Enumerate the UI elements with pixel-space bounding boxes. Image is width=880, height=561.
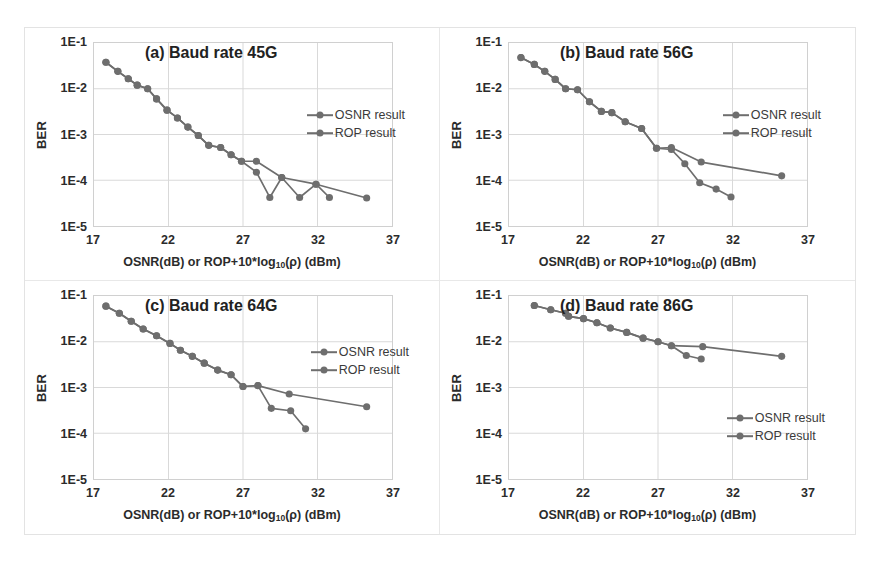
data-point	[125, 75, 132, 82]
data-point	[312, 181, 319, 188]
y-tick-a-3: 1E-4	[61, 174, 87, 188]
data-point	[668, 342, 675, 349]
data-point	[278, 174, 285, 181]
legend-label-osnr: OSNR result	[335, 108, 405, 122]
panel-a: BER 1E-11E-21E-31E-41E-5 (a) Baud rate 4…	[25, 28, 440, 281]
legend-label-rop: ROP result	[751, 126, 812, 140]
panel-title-c: (c) Baud rate 64G	[145, 297, 277, 315]
data-point	[253, 158, 260, 165]
data-point	[128, 318, 135, 325]
data-point	[239, 383, 246, 390]
y-tick-d-3: 1E-4	[476, 427, 502, 441]
legend-marker-icon	[307, 109, 333, 121]
data-point	[699, 343, 706, 350]
panel-title-b: (b) Baud rate 56G	[560, 44, 693, 62]
x-tick-d-0: 17	[501, 486, 515, 500]
data-point	[238, 158, 245, 165]
data-point	[552, 76, 559, 83]
data-point	[623, 329, 630, 336]
legend-label-osnr: OSNR result	[751, 108, 821, 122]
panel-title-d: (d) Baud rate 86G	[560, 297, 693, 315]
y-tick-d-2: 1E-3	[476, 381, 502, 395]
data-point	[302, 425, 309, 432]
data-point	[681, 160, 688, 167]
data-point	[195, 132, 202, 139]
legend-marker-icon	[727, 412, 753, 424]
x-tick-a-4: 37	[386, 233, 400, 247]
panel-grid: BER 1E-11E-21E-31E-41E-5 (a) Baud rate 4…	[24, 27, 856, 535]
x-tick-b-1: 22	[576, 233, 590, 247]
legend-marker-icon	[723, 109, 749, 121]
plot-area-c	[93, 295, 393, 480]
data-point	[593, 319, 600, 326]
data-point	[640, 335, 647, 342]
data-point	[598, 108, 605, 115]
data-point	[166, 340, 173, 347]
plot-canvas-d	[509, 296, 807, 479]
data-point	[608, 109, 615, 116]
data-point	[189, 353, 196, 360]
data-point	[696, 179, 703, 186]
x-tick-a-1: 22	[161, 233, 175, 247]
x-axis-label-c: OSNR(dB) or ROP+10*log10(ρ) (dBm)	[25, 508, 439, 522]
y-tick-b-4: 1E-5	[476, 220, 502, 234]
x-tick-c-4: 37	[386, 486, 400, 500]
data-point	[286, 390, 293, 397]
data-point	[778, 172, 785, 179]
x-tick-a-0: 17	[86, 233, 100, 247]
data-point	[296, 194, 303, 201]
panel-title-a: (a) Baud rate 45G	[145, 44, 277, 62]
legend-marker-icon	[307, 127, 333, 139]
x-tick-d-3: 32	[726, 486, 740, 500]
y-tick-c-2: 1E-3	[61, 381, 87, 395]
data-point	[531, 302, 538, 309]
x-tick-b-3: 32	[726, 233, 740, 247]
legend-label-rop: ROP result	[335, 126, 396, 140]
legend-label-osnr: OSNR result	[339, 345, 409, 359]
y-tick-column-d: 1E-11E-21E-31E-41E-5	[456, 281, 502, 534]
x-tick-d-4: 37	[801, 486, 815, 500]
data-point	[531, 61, 538, 68]
data-point	[102, 59, 109, 66]
y-tick-b-0: 1E-1	[476, 35, 502, 49]
y-tick-c-3: 1E-4	[61, 427, 87, 441]
data-point	[268, 405, 275, 412]
x-tick-a-2: 27	[236, 233, 250, 247]
data-point	[580, 315, 587, 322]
y-tick-a-1: 1E-2	[61, 81, 87, 95]
y-tick-b-3: 1E-4	[476, 174, 502, 188]
legend-entry-osnr-b: OSNR result	[723, 106, 821, 124]
legend-entry-rop-d: ROP result	[727, 427, 825, 445]
x-tick-b-4: 37	[801, 233, 815, 247]
data-point	[134, 82, 141, 89]
legend-marker-icon	[727, 430, 753, 442]
legend-entry-osnr-d: OSNR result	[727, 409, 825, 427]
data-point	[201, 360, 208, 367]
x-tick-b-2: 27	[651, 233, 665, 247]
x-axis-label-a: OSNR(dB) or ROP+10*log10(ρ) (dBm)	[25, 255, 439, 269]
x-axis-label-d: OSNR(dB) or ROP+10*log10(ρ) (dBm)	[440, 508, 855, 522]
y-tick-b-2: 1E-3	[476, 128, 502, 142]
data-point	[140, 325, 147, 332]
legend-c: OSNR result ROP result	[311, 343, 409, 379]
data-point	[228, 371, 235, 378]
data-point	[668, 146, 675, 153]
y-tick-b-1: 1E-2	[476, 81, 502, 95]
y-tick-d-0: 1E-1	[476, 288, 502, 302]
figure-root: BER 1E-11E-21E-31E-41E-5 (a) Baud rate 4…	[0, 0, 880, 561]
legend-entry-rop-b: ROP result	[723, 124, 821, 142]
data-point	[144, 85, 151, 92]
data-point	[214, 367, 221, 374]
data-point	[253, 169, 260, 176]
series-line-rop	[106, 306, 306, 429]
y-tick-c-1: 1E-2	[61, 334, 87, 348]
data-point	[698, 158, 705, 165]
y-tick-c-4: 1E-5	[61, 473, 87, 487]
legend-label-rop: ROP result	[755, 429, 816, 443]
data-point	[638, 125, 645, 132]
data-point	[547, 306, 554, 313]
x-tick-c-1: 22	[161, 486, 175, 500]
data-point	[102, 303, 109, 310]
x-axis-label-b: OSNR(dB) or ROP+10*log10(ρ) (dBm)	[440, 255, 855, 269]
data-point	[217, 144, 224, 151]
